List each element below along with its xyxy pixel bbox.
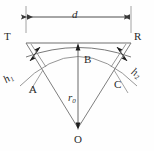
arc-geometry-figure: T R d A B C O r0 h1 h2 [0, 0, 154, 151]
label-radius-r0: r0 [68, 88, 76, 104]
label-radius-subscript: 0 [72, 97, 76, 105]
dimension-arrowhead-left [27, 14, 33, 19]
radius-arrowhead-bottom [76, 123, 81, 131]
label-point-T: T [4, 31, 11, 42]
label-point-O: O [74, 134, 82, 145]
label-dimension-d: d [72, 9, 78, 20]
label-point-A: A [29, 84, 37, 95]
dimension-arrowhead-right [124, 14, 130, 19]
label-point-R: R [134, 31, 141, 42]
label-point-C: C [114, 79, 121, 90]
radius-arrowhead-top [76, 43, 81, 51]
label-point-B: B [84, 54, 91, 65]
